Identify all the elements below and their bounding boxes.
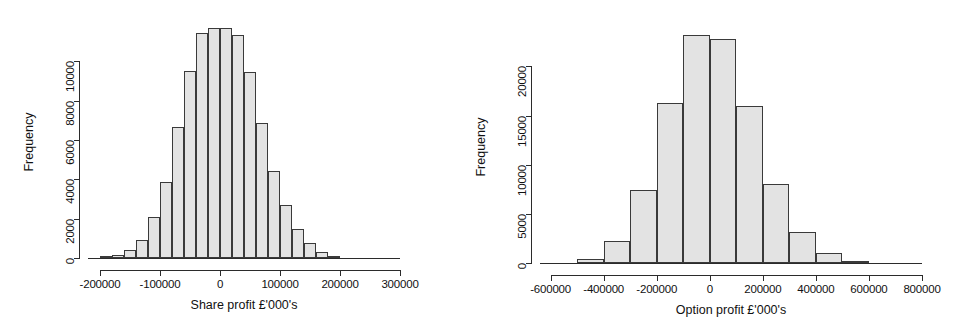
histogram-bars — [540, 31, 922, 263]
histogram-bar — [816, 253, 843, 263]
x-axis-tick — [280, 270, 281, 276]
x-axis-tick — [657, 275, 658, 281]
histogram-bar — [244, 72, 256, 258]
share-profit-plot-area: 0200040006000800010000-200000-1000000100… — [88, 26, 400, 258]
x-axis-tick-label: 200000 — [744, 283, 781, 295]
x-axis-tick — [551, 275, 552, 281]
histogram-bar — [220, 28, 232, 258]
y-axis-title: Frequency — [22, 112, 36, 171]
histogram-bar — [683, 35, 710, 263]
histogram-bar — [710, 39, 737, 263]
x-axis-tick-label: -100000 — [140, 278, 181, 290]
histogram-bar — [196, 33, 208, 258]
y-axis-title: Frequency — [474, 117, 488, 176]
histogram-bar — [763, 184, 790, 263]
x-axis-title: Option profit £'000's — [676, 303, 786, 317]
zero-baseline — [540, 263, 922, 264]
x-axis-tick — [604, 275, 605, 281]
x-axis-tick — [922, 275, 923, 281]
option-profit-chart-panel: 05000100001500020000-600000-400000-20000… — [476, 0, 953, 332]
histogram-bar — [630, 190, 657, 263]
option-profit-plot-area: 05000100001500020000-600000-400000-20000… — [540, 31, 922, 263]
histogram-bar — [148, 217, 160, 258]
x-axis-tick-label: -400000 — [583, 283, 624, 295]
histogram-bar — [124, 250, 136, 258]
histogram-bar — [268, 171, 280, 258]
histogram-bar — [172, 127, 184, 258]
y-axis-tick-label: 15000 — [516, 116, 528, 147]
histogram-bar — [280, 205, 292, 258]
x-axis-tick — [160, 270, 161, 276]
y-axis-line — [79, 61, 80, 258]
y-axis-tick-label: 6000 — [64, 140, 76, 165]
x-axis-tick-label: 0 — [707, 283, 713, 295]
x-axis-tick — [340, 270, 341, 276]
y-axis-tick-label: 10000 — [64, 61, 76, 92]
x-axis-line — [100, 270, 400, 271]
histogram-bar — [256, 123, 268, 258]
histogram-bar — [736, 106, 763, 263]
x-axis-tick-label: 200000 — [321, 278, 358, 290]
histogram-bar — [184, 71, 196, 258]
histogram-bar — [789, 232, 816, 263]
x-axis-tick-label: 400000 — [797, 283, 834, 295]
x-axis-tick-label: -200000 — [80, 278, 121, 290]
share-profit-chart-panel: 0200040006000800010000-200000-1000000100… — [0, 0, 476, 332]
y-axis-tick-label: 20000 — [516, 66, 528, 97]
histogram-bar — [136, 240, 148, 258]
x-axis-title: Share profit £'000's — [191, 298, 298, 312]
histogram-bar — [292, 229, 304, 258]
x-axis-tick — [400, 270, 401, 276]
two-histogram-figure: 0200040006000800010000-200000-1000000100… — [0, 0, 953, 332]
y-axis-tick-label: 5000 — [516, 214, 528, 239]
y-axis-tick-label: 10000 — [516, 165, 528, 196]
histogram-bar — [232, 35, 244, 258]
y-axis-tick-label: 4000 — [64, 179, 76, 204]
histogram-bar — [208, 28, 220, 258]
histogram-bar — [604, 241, 631, 263]
y-axis-tick-label: 2000 — [64, 219, 76, 244]
x-axis-tick-label: 600000 — [850, 283, 887, 295]
x-axis-tick-label: 800000 — [903, 283, 940, 295]
x-axis-tick-label: 100000 — [261, 278, 298, 290]
histogram-bars — [88, 26, 400, 258]
y-axis-tick-label: 0 — [64, 258, 76, 264]
histogram-bar — [304, 243, 316, 258]
x-axis-tick — [100, 270, 101, 276]
x-axis-tick-label: 0 — [217, 278, 223, 290]
y-axis-tick-label: 0 — [516, 263, 528, 269]
x-axis-tick — [220, 270, 221, 276]
histogram-bar — [160, 182, 172, 258]
x-axis-tick — [710, 275, 711, 281]
x-axis-tick-label: -600000 — [530, 283, 571, 295]
zero-baseline — [88, 258, 400, 259]
x-axis-tick-label: -200000 — [636, 283, 677, 295]
x-axis-tick — [763, 275, 764, 281]
x-axis-line — [551, 275, 922, 276]
histogram-bar — [657, 103, 684, 263]
x-axis-tick-label: 300000 — [381, 278, 418, 290]
x-axis-tick — [869, 275, 870, 281]
x-axis-tick — [816, 275, 817, 281]
y-axis-tick-label: 8000 — [64, 101, 76, 126]
